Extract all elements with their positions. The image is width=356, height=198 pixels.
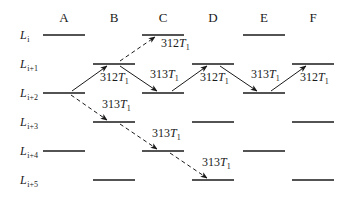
transition-label: 312T1	[161, 36, 190, 52]
dashed-arrow	[120, 37, 155, 61]
row-label-liplus2: Li+2	[19, 86, 38, 102]
transition-label: 313T1	[152, 126, 181, 142]
row-label-li: Li	[19, 28, 30, 44]
column-label-d: D	[208, 10, 217, 25]
row-label-liplus5: Li+5	[19, 173, 38, 189]
column-labels: ABCDEF	[59, 10, 316, 25]
diagram-canvas: ABCDEF LiLi+1Li+2Li+3Li+4Li+5 312T1313T1…	[0, 0, 356, 198]
transition-label: 312T1	[200, 70, 229, 86]
transition-label: 313T1	[150, 67, 179, 83]
transition-label: 313T1	[202, 155, 231, 171]
row-label-liplus4: Li+4	[19, 144, 38, 160]
column-label-c: C	[159, 10, 168, 25]
transition-label: 312T1	[100, 70, 129, 86]
transition-label: 313T1	[102, 97, 131, 113]
column-label-b: B	[110, 10, 119, 25]
column-label-f: F	[309, 10, 316, 25]
row-label-liplus3: Li+3	[19, 115, 38, 131]
column-label-a: A	[59, 10, 69, 25]
column-label-e: E	[260, 10, 268, 25]
energy-levels	[43, 35, 334, 180]
row-label-liplus1: Li+1	[19, 57, 38, 73]
transition-label: 312T1	[300, 70, 329, 86]
energy-level-diagram: ABCDEF LiLi+1Li+2Li+3Li+4Li+5 312T1313T1…	[0, 0, 356, 198]
row-labels: LiLi+1Li+2Li+3Li+4Li+5	[19, 28, 38, 189]
transition-labels: 312T1313T1312T1313T1312T1312T1313T1313T1…	[100, 36, 329, 171]
transition-label: 313T1	[251, 67, 280, 83]
